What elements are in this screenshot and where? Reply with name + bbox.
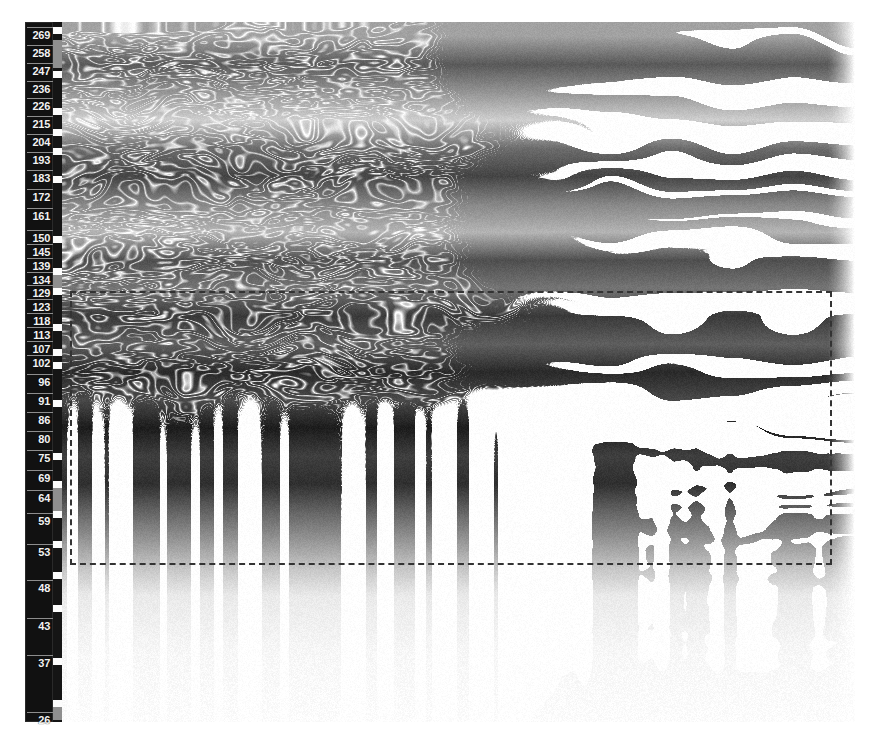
- track-tick-mark: [53, 511, 62, 518]
- axis-tick-label: 129: [25, 286, 51, 300]
- axis-tick-label: 226: [25, 99, 51, 113]
- axis-tick-label: 150: [25, 231, 51, 245]
- axis-tick-label: 75: [25, 451, 51, 465]
- axis-tick-label: 86: [25, 413, 51, 427]
- track-tick-mark: [53, 324, 62, 331]
- track-tick-mark: [53, 129, 62, 136]
- figure-ylabel: [0, 0, 1, 1]
- track-tick-mark: [53, 236, 62, 243]
- track-tick-mark: [53, 27, 62, 34]
- track-tick-mark: [53, 572, 62, 579]
- track-tick-mark: [53, 700, 62, 707]
- figure-title: [0, 0, 1, 1]
- track-grey-band: [53, 487, 62, 511]
- axis-tick-label: 193: [25, 153, 51, 167]
- axis-tick-label: 269: [25, 28, 51, 42]
- track-grey-band: [53, 40, 62, 68]
- axis-tick-label: 59: [25, 514, 51, 528]
- track-tick-mark: [53, 453, 62, 460]
- axis-tick-label: 102: [25, 356, 51, 370]
- figure-root: 2692582472362262152041931831721611501451…: [0, 0, 880, 744]
- track-tick-mark: [53, 108, 62, 115]
- axis-tick-label: 204: [25, 135, 51, 149]
- axis-tick-label: 161: [25, 209, 51, 223]
- axis-tick-label: 107: [25, 342, 51, 356]
- axis-tick-label: 118: [25, 314, 51, 328]
- axis-tick-label: 145: [25, 245, 51, 259]
- figure-xlabel: [0, 0, 1, 1]
- track-tick-mark: [53, 268, 62, 275]
- roi-label: [0, 0, 1, 1]
- track-tick-mark: [53, 148, 62, 155]
- track-tick-mark: [53, 176, 62, 183]
- axis-tick-label: 48: [25, 581, 51, 595]
- axis-tick-label: 26: [25, 713, 51, 727]
- axis-tick-label: 183: [25, 171, 51, 185]
- axis-tick-label: 215: [25, 117, 51, 131]
- vertical-axis-ruler: 2692582472362262152041931831721611501451…: [25, 22, 53, 722]
- sequence-tick-track: [53, 22, 62, 722]
- axis-tick-label: 91: [25, 394, 51, 408]
- axis-tick-label: 53: [25, 545, 51, 559]
- heatmap-canvas[interactable]: [62, 22, 855, 722]
- axis-tick-label: 96: [25, 375, 51, 389]
- track-tick-mark: [53, 658, 62, 665]
- axis-tick-label: 37: [25, 656, 51, 670]
- axis-tick-label: 139: [25, 259, 51, 273]
- track-tick-mark: [53, 349, 62, 356]
- track-tick-mark: [53, 400, 62, 407]
- track-tick-mark: [53, 362, 62, 369]
- axis-tick-label: 236: [25, 82, 51, 96]
- axis-tick-label: 258: [25, 46, 51, 60]
- axis-tick-label: 123: [25, 300, 51, 314]
- heatmap-panel[interactable]: [62, 22, 855, 722]
- axis-tick-label: 69: [25, 471, 51, 485]
- track-tick-mark: [53, 541, 62, 548]
- track-tick-mark: [53, 605, 62, 612]
- axis-tick-label: 247: [25, 64, 51, 78]
- track-tick-mark: [53, 288, 62, 295]
- axis-tick-label: 64: [25, 491, 51, 505]
- axis-tick-label: 43: [25, 619, 51, 633]
- axis-tick-label: 172: [25, 190, 51, 204]
- track-tick-mark: [53, 481, 62, 488]
- axis-tick-label: 80: [25, 432, 51, 446]
- track-tick-mark: [53, 71, 62, 78]
- axis-tick-label: 113: [25, 328, 51, 342]
